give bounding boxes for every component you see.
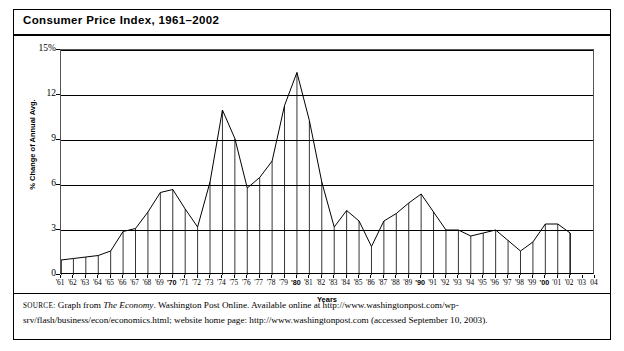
x-tick-label-78: '78 [267, 278, 276, 287]
x-tick-label-74: '74 [217, 278, 226, 287]
y-tick-label-3: 3 [14, 223, 56, 233]
x-tick-label-92: '92 [441, 278, 450, 287]
x-tick-label-85: '85 [354, 278, 363, 287]
x-tick-label-95: '95 [478, 278, 487, 287]
y-tick-label-15: 15% [14, 43, 56, 53]
x-tick-label-90: '90 [415, 278, 425, 287]
x-tick-label-86: '86 [366, 278, 375, 287]
x-tick-label-63: '63 [80, 278, 89, 287]
plot-wrapper: % Change of Annual Avg. 15%129630 '61'62… [14, 36, 612, 294]
x-tick-label-69: '69 [155, 278, 164, 287]
x-tick-label-66: '66 [118, 278, 127, 287]
x-tick-label-64: '64 [93, 278, 102, 287]
source-prefix: SOURCE: [23, 302, 55, 310]
x-tick-label-75: '75 [229, 278, 238, 287]
y-tick-label-6: 6 [14, 178, 56, 188]
x-tick-label-97: '97 [503, 278, 512, 287]
title-bar: Consumer Price Index, 1961–2002 [14, 10, 610, 36]
x-tick-label-03: '03 [577, 278, 586, 287]
x-tick-label-02: '02 [565, 278, 574, 287]
x-tick-label-67: '67 [130, 278, 139, 287]
drop-lines [61, 73, 570, 276]
x-tick-label-70: '70 [167, 278, 177, 287]
x-tick-label-04: 04 [590, 278, 597, 287]
y-tick-label-0: 0 [14, 268, 56, 278]
x-tick-label-81: '81 [304, 278, 313, 287]
x-tick-label-01: '01 [552, 278, 561, 287]
x-tick-label-68: '68 [143, 278, 152, 287]
page-title: Consumer Price Index, 1961–2002 [23, 14, 219, 26]
x-tick-label-94: '94 [465, 278, 474, 287]
x-tick-label-79: '79 [279, 278, 288, 287]
cpi-line [61, 73, 570, 276]
x-tick-label-91: '91 [428, 278, 437, 287]
x-tick-label-83: '83 [329, 278, 338, 287]
plot-area [60, 49, 594, 274]
source-italic-title: The Economy [103, 300, 153, 310]
x-tick-label-82: '82 [316, 278, 325, 287]
x-tick-label-77: '77 [254, 278, 263, 287]
x-tick-label-96: '96 [490, 278, 499, 287]
figure-container: Consumer Price Index, 1961–2002 % Change… [13, 9, 611, 340]
y-tick-label-9: 9 [14, 133, 56, 143]
x-tick-label-71: '71 [180, 278, 189, 287]
y-tick-label-12: 12 [14, 88, 56, 98]
x-tick-label-89: '89 [403, 278, 412, 287]
x-tick-label-98: '98 [515, 278, 524, 287]
x-tick-label-61: '61 [56, 278, 65, 287]
x-tick-label-62: '62 [68, 278, 77, 287]
source-bar: SOURCE: Graph from The Economy. Washingt… [14, 293, 610, 339]
source-part1: Graph from [55, 300, 103, 310]
x-tick-label-99: '99 [528, 278, 537, 287]
x-tick-label-87: '87 [379, 278, 388, 287]
x-tick-label-72: '72 [192, 278, 201, 287]
x-tick-label-73: '73 [205, 278, 214, 287]
x-tick-label-88: '88 [391, 278, 400, 287]
source-citation: SOURCE: Graph from The Economy. Washingt… [23, 299, 601, 327]
x-tick-label-80: '80 [291, 278, 301, 287]
x-tick-label-93: '93 [453, 278, 462, 287]
x-tick-label-00: '00 [539, 278, 549, 287]
x-tick-label-65: '65 [105, 278, 114, 287]
data-series-svg [61, 50, 595, 275]
x-tick-label-84: '84 [341, 278, 350, 287]
x-tick-label-76: '76 [242, 278, 251, 287]
